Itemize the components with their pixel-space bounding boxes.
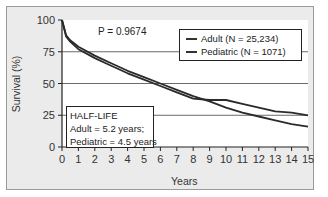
legend-swatch-pediatric [186, 51, 197, 53]
x-tick-label: 9 [207, 153, 213, 165]
x-tick-label: 12 [253, 153, 265, 165]
x-tick-label: 1 [75, 153, 81, 165]
x-tick-label: 2 [92, 153, 98, 165]
y-axis-title: Survival (%) [10, 56, 22, 113]
legend-item-adult: Adult (N = 25,234) [186, 32, 301, 45]
half-life-box: HALF-LIFE Adult = 5.2 years; Pediatric =… [66, 106, 154, 148]
half-life-title: HALF-LIFE [70, 109, 153, 122]
x-tick-label: 0 [59, 153, 65, 165]
x-tick-label: 13 [269, 153, 281, 165]
x-axis-title: Years [171, 175, 197, 187]
y-tick-label: 100 [37, 14, 55, 26]
x-tick-label: 11 [237, 153, 248, 165]
legend-label-adult: Adult (N = 25,234) [201, 32, 278, 45]
x-tick-label: 8 [190, 153, 196, 165]
half-life-pediatric: Pediatric = 4.5 years [70, 135, 153, 148]
y-tick-label: 75 [43, 46, 55, 58]
p-value-annotation: P = 0.9674 [98, 26, 146, 37]
legend-label-pediatric: Pediatric (N = 1071) [201, 45, 286, 58]
y-tick-label: 50 [43, 78, 55, 90]
x-tick-labels: 0123456789101112131415 [59, 153, 314, 165]
x-tick-label: 7 [174, 153, 180, 165]
y-tick-label: 25 [43, 109, 55, 121]
x-tick-label: 4 [125, 153, 131, 165]
x-tick-label: 15 [302, 153, 314, 165]
y-tick-label: 0 [49, 141, 55, 153]
x-tick-label: 10 [220, 153, 232, 165]
x-tick-label: 14 [285, 153, 297, 165]
x-tick-label: 5 [141, 153, 147, 165]
legend-item-pediatric: Pediatric (N = 1071) [186, 45, 301, 58]
legend: Adult (N = 25,234) Pediatric (N = 1071) [179, 29, 302, 61]
x-tick-label: 6 [157, 153, 163, 165]
half-life-adult: Adult = 5.2 years; [70, 122, 153, 135]
x-tick-label: 3 [108, 153, 114, 165]
y-tick-labels: 0255075100 [37, 14, 55, 153]
legend-swatch-adult [186, 38, 197, 40]
